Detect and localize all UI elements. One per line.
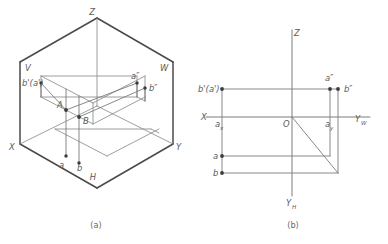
point-b-b-marker <box>220 171 224 175</box>
box-edge-z-to-w-top <box>97 18 173 62</box>
label-a-plane-w: W <box>160 63 169 73</box>
projection-box-outline <box>20 18 173 188</box>
label-b-axis-yw-subscript: W <box>361 120 367 126</box>
label-b-ax-subscript: x <box>219 125 224 131</box>
label-a-b-doubleprime: b″ <box>149 83 158 93</box>
label-b-point-b: b <box>213 168 218 178</box>
point-b-doubleprime-marker <box>143 86 146 89</box>
label-b-ay-subscript: y <box>329 125 334 132</box>
label-a-point-b: b <box>77 163 82 173</box>
diagram-b-construction <box>222 89 338 173</box>
label-b-ay-group: a y <box>325 119 334 132</box>
label-a-axis-z: Z <box>88 7 95 17</box>
label-b-ax-group: a x <box>215 119 224 131</box>
caption-b: (b) <box>287 220 299 230</box>
label-b-a-doubleprime: a″ <box>325 73 334 83</box>
label-a-point-B: B <box>83 116 89 126</box>
label-a-point-a: a <box>59 160 64 170</box>
label-b-axis-z: Z <box>293 28 300 38</box>
upper-rect-edge-left-front <box>41 76 93 103</box>
label-b-bprime-aprime: b'(a') <box>198 84 220 94</box>
label-a-axis-x: X <box>8 142 15 152</box>
diagram-b-axes <box>206 30 370 196</box>
figure-container: Z V W H X Y b'(a') a″ b″ A B a b (a) <box>0 0 388 244</box>
axis-oy <box>97 106 173 144</box>
point-b-a-marker <box>220 154 224 158</box>
point-a-doubleprime-marker <box>135 81 138 84</box>
floor-rect-lower-left-diag <box>55 129 107 156</box>
label-a-axis-y: Y <box>176 142 182 152</box>
point-a-marker <box>64 154 67 157</box>
floor-rect-front-diag <box>93 97 145 124</box>
point-b-b-doubleprime-marker <box>336 87 340 91</box>
box-edge-h-right <box>97 144 173 188</box>
floor-construction-rectangle <box>41 76 159 156</box>
point-b-bprime-aprime-marker <box>220 87 224 91</box>
point-B-marker <box>77 115 81 119</box>
floor-rect-lower-right-diag <box>107 129 159 156</box>
label-b-axis-yw-group: Y W <box>355 114 367 126</box>
point-b-a-doubleprime-marker <box>328 87 332 91</box>
label-b-axis-yh-group: Y H <box>286 198 297 210</box>
label-b-origin-o: O <box>283 119 290 129</box>
label-b-point-a: a <box>213 151 218 161</box>
label-a-a-doubleprime: a″ <box>131 71 140 81</box>
box-edge-z-to-v-top <box>20 18 97 62</box>
label-a-plane-v: V <box>25 63 32 73</box>
label-b-axis-yh-subscript: H <box>292 204 297 210</box>
diagram-a-svg: Z V W H X Y b'(a') a″ b″ A B a b (a) <box>0 0 388 244</box>
label-a-bprime-aprime: b'(a') <box>22 78 44 88</box>
label-b-b-doubleprime: b″ <box>344 84 353 94</box>
diagram-b-points <box>220 87 340 175</box>
label-a-plane-h: H <box>90 172 97 182</box>
caption-a: (a) <box>90 220 101 230</box>
point-A-marker <box>64 108 68 112</box>
label-a-point-A: A <box>56 100 63 110</box>
label-b-axis-x: X <box>200 112 207 122</box>
